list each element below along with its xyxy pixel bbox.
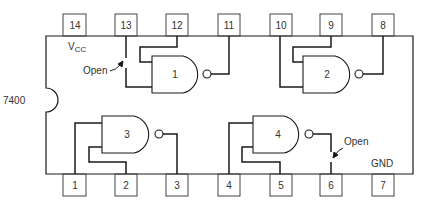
gate-4-label: 4 [275,129,281,140]
vcc-label: VCC [68,41,86,54]
pin-label-6: 6 [328,180,334,191]
pin-label-3: 3 [174,180,180,191]
nand-gate-4 [253,116,313,153]
open-arrow-top-icon [110,61,123,71]
open-label-bottom: Open [344,136,368,147]
pin-label-11: 11 [224,20,235,31]
gate-1-label: 1 [172,69,178,80]
pin-label-4: 4 [226,180,232,191]
open-arrow-bottom-icon [333,148,343,158]
gate-2-wiring [280,36,383,87]
pin-label-9: 9 [328,20,334,31]
part-number-label: 7400 [3,95,26,106]
pin-label-10: 10 [275,20,287,31]
nand-gate-3 [102,116,163,153]
gate-2-label: 2 [324,69,330,80]
gnd-label: GND [371,158,393,169]
pin-label-2: 2 [123,180,129,191]
pin-label-1: 1 [72,180,78,191]
pin-label-7: 7 [380,180,386,191]
pin-label-8: 8 [380,20,386,31]
pin-label-12: 12 [171,20,183,31]
nand-gate-2 [303,56,363,93]
pin-label-13: 13 [120,20,132,31]
gate-3-label: 3 [124,129,130,140]
pin-label-5: 5 [278,180,284,191]
ic-7400-diagram: 14 13 12 11 10 9 8 1 2 3 4 5 6 7 7400 VC… [0,0,425,206]
open-label-top: Open [83,65,107,76]
pin-label-14: 14 [69,20,81,31]
nand-gate-1 [152,56,211,93]
